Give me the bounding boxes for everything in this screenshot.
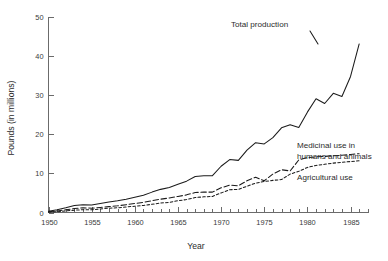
series-line-0 [49, 44, 360, 211]
x-tick-label: 1965 [170, 218, 186, 227]
y-tick-label: 50 [35, 13, 43, 22]
y-tick-label: 20 [35, 130, 43, 139]
x-tick-label: 1970 [213, 218, 229, 227]
y-tick-label: 10 [35, 169, 43, 178]
annotation-medicinal-line2: humans and animals [297, 152, 372, 161]
y-axis-group: 01020304050 [35, 13, 53, 218]
series-lines [49, 31, 360, 212]
x-tick-label: 1960 [127, 218, 143, 227]
x-axis-tick-labels: 19501955196019651970197519801985 [41, 218, 359, 227]
x-tick-label: 1985 [343, 218, 359, 227]
x-axis-title: Year [187, 241, 205, 251]
x-axis-major-ticks [50, 207, 352, 213]
y-tick-label: 30 [35, 91, 43, 100]
annotation-medicinal-line1: Medicinal use in [297, 141, 355, 150]
series-line-1 [49, 154, 360, 212]
x-tick-label: 1950 [41, 218, 57, 227]
annotation-total-production: Total production [231, 20, 288, 29]
y-tick-label: 40 [35, 52, 43, 61]
chart-container: 01020304050 1950195519601965197019751980… [0, 0, 388, 261]
x-tick-label: 1955 [84, 218, 100, 227]
y-axis-title: Pounds (in millions) [6, 80, 16, 155]
annotation-agricultural: Agricultural use [297, 173, 353, 182]
x-tick-label: 1980 [299, 218, 315, 227]
y-axis-tick-labels: 01020304050 [35, 13, 43, 218]
line-chart: 01020304050 1950195519601965197019751980… [0, 0, 388, 261]
y-axis-ticks [49, 18, 54, 214]
x-tick-label: 1975 [256, 218, 272, 227]
